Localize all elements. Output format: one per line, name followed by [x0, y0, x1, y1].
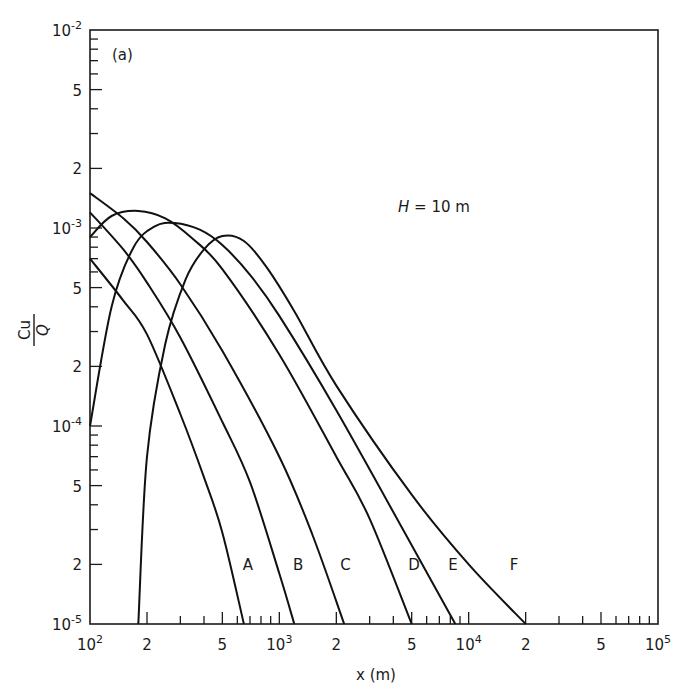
y-axis-label: Cu Q: [16, 314, 52, 346]
annotation-height: H = 10 m: [398, 198, 470, 216]
curves: ABCDEF: [90, 193, 526, 624]
x-tick-label: 5: [218, 636, 228, 654]
curve-label-a: A: [243, 556, 254, 574]
y-label-numerator: Cu: [16, 320, 34, 340]
y-tick-label: 2: [72, 160, 82, 178]
dispersion-chart: ABCDEF 10225103251042510510-25210-35210-…: [0, 0, 683, 688]
annotation-var: H: [398, 198, 409, 216]
y-tick-label: 10-5: [52, 613, 82, 634]
x-tick-label: 104: [456, 633, 482, 654]
curve-label-b: B: [293, 556, 303, 574]
y-tick-label: 2: [72, 358, 82, 376]
annotation-rest: = 10 m: [409, 198, 470, 216]
x-tick-label: 2: [521, 636, 531, 654]
curve-f: [138, 236, 525, 624]
x-tick-label: 103: [266, 633, 292, 654]
y-tick-label: 5: [72, 82, 82, 100]
curve-label-c: C: [340, 556, 350, 574]
curve-label-d: D: [408, 556, 420, 574]
curve-label-e: E: [448, 556, 457, 574]
y-tick-label: 5: [72, 478, 82, 496]
x-axis-label: x (m): [356, 666, 396, 684]
tick-labels: 10225103251042510510-25210-35210-45210-5: [52, 19, 671, 654]
x-tick-label: 5: [596, 636, 606, 654]
x-tick-label: 102: [77, 633, 103, 654]
curve-e: [90, 223, 455, 624]
y-tick-label: 10-3: [52, 217, 82, 238]
y-tick-label: 2: [72, 556, 82, 574]
x-tick-label: 2: [142, 636, 152, 654]
curve-label-f: F: [510, 556, 519, 574]
y-tick-label: 10-2: [52, 19, 82, 40]
x-tick-label: 5: [407, 636, 417, 654]
x-tick-label: 2: [332, 636, 342, 654]
panel-label: (a): [112, 46, 133, 64]
y-label-denominator: Q: [34, 324, 52, 336]
x-tick-label: 105: [645, 633, 671, 654]
y-tick-label: 5: [72, 280, 82, 298]
axis-ticks: [90, 39, 649, 624]
y-tick-label: 10-4: [52, 415, 82, 436]
